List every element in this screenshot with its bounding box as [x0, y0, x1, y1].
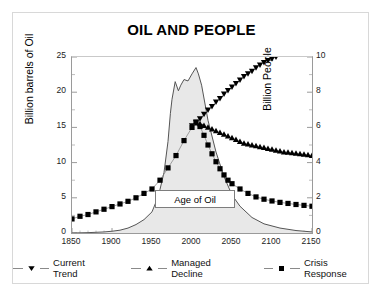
legend-item[interactable]: Crisis Response — [264, 257, 370, 279]
legend-item[interactable]: Current Trend — [13, 257, 109, 279]
y-axis-left-title: Billion barrels of Oil — [23, 0, 35, 159]
chart-title: OIL AND PEOPLE — [13, 21, 370, 38]
x-axis-tick: 2000 — [171, 236, 211, 246]
x-axis-tick: 2150 — [291, 236, 331, 246]
y-axis-left-tick: 0 — [42, 226, 66, 236]
x-axis-tick: 1900 — [91, 236, 131, 246]
legend-line-icon — [158, 268, 168, 269]
y-axis-right-tick: 10 — [316, 50, 340, 60]
y-axis-left-tick: 20 — [42, 85, 66, 95]
y-axis-right-tick: 8 — [316, 85, 340, 95]
chart-container: OIL AND PEOPLE Billion barrels of Oil Bi… — [12, 12, 369, 284]
legend-line-icon — [40, 268, 50, 269]
legend-square-icon — [277, 264, 286, 273]
legend-line-icon — [264, 268, 274, 269]
y-axis-right-tick: 4 — [316, 156, 340, 166]
y-axis-left-tick: 25 — [42, 50, 66, 60]
x-axis-tick: 2100 — [251, 236, 291, 246]
y-axis-right-tick: 2 — [316, 191, 340, 201]
y-axis-right-tick: 6 — [316, 120, 340, 130]
age-of-oil-annotation: Age of Oil — [155, 190, 235, 208]
legend-line-icon — [131, 268, 141, 269]
y-axis-right-tick: 0 — [316, 226, 340, 236]
y-axis-left-tick: 5 — [42, 191, 66, 201]
legend-item-label: Current Trend — [53, 257, 109, 279]
chart-legend: Current TrendManaged DeclineCrisis Respo… — [13, 257, 370, 279]
y-axis-left-tick: 15 — [42, 120, 66, 130]
legend-item[interactable]: Managed Decline — [131, 257, 242, 279]
legend-line-icon — [290, 268, 300, 269]
legend-line-icon — [13, 268, 23, 269]
x-axis-tick: 2050 — [211, 236, 251, 246]
x-axis-tick: 1850 — [51, 236, 91, 246]
legend-item-label: Crisis Response — [304, 257, 370, 279]
y-axis-left-tick: 10 — [42, 156, 66, 166]
legend-item-label: Managed Decline — [171, 257, 242, 279]
age-of-oil-label: Age of Oil — [174, 194, 216, 205]
x-axis-tick: 1950 — [131, 236, 171, 246]
legend-triangle-up-icon — [145, 264, 154, 273]
plot-area: Age of Oil — [71, 56, 313, 234]
legend-triangle-down-icon — [27, 264, 36, 273]
